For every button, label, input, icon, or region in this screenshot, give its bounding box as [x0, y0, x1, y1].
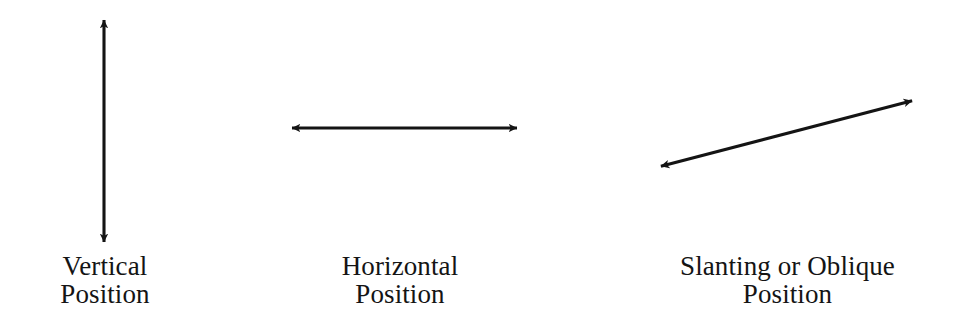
caption-horizontal-line2: Position — [294, 280, 506, 308]
caption-slanting: Slanting or Oblique Position — [655, 252, 920, 308]
caption-horizontal: Horizontal Position — [294, 252, 506, 308]
line-positions-figure: Vertical Position Horizontal Position Sl… — [0, 0, 970, 331]
caption-vertical-line1: Vertical — [0, 252, 210, 280]
caption-vertical-line2: Position — [0, 280, 210, 308]
caption-slanting-line2: Position — [655, 280, 920, 308]
caption-horizontal-line1: Horizontal — [294, 252, 506, 280]
slanting-arrow-shaft — [661, 101, 912, 166]
caption-slanting-line1: Slanting or Oblique — [655, 252, 920, 280]
caption-vertical: Vertical Position — [0, 252, 210, 308]
slanting-double-arrow — [661, 101, 912, 166]
